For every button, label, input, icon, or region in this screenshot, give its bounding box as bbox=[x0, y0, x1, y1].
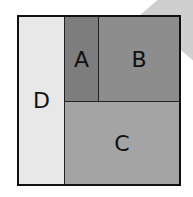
region-d-label: D bbox=[33, 88, 50, 113]
region-d: D bbox=[19, 17, 65, 184]
region-b-label: B bbox=[131, 47, 146, 72]
region-c-label: C bbox=[114, 131, 129, 156]
diagram-frame: D A B C bbox=[17, 15, 181, 186]
region-a-label: A bbox=[74, 47, 89, 72]
region-c: C bbox=[65, 102, 179, 184]
region-b: B bbox=[99, 17, 179, 102]
region-a: A bbox=[65, 17, 99, 102]
